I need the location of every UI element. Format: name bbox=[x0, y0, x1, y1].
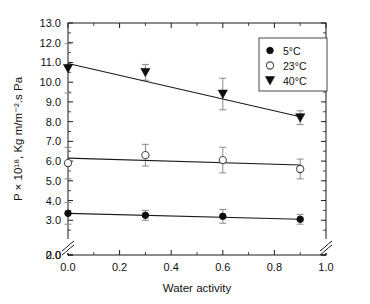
data-point bbox=[65, 210, 72, 217]
y-tick-label: 2.0 bbox=[46, 249, 61, 261]
y-tick-label: 7.0 bbox=[46, 135, 61, 147]
x-tick-label: 0.0 bbox=[60, 261, 75, 273]
data-point bbox=[297, 165, 304, 172]
x-tick-label: 0.4 bbox=[164, 261, 179, 273]
y-tick-label: 3.0 bbox=[46, 214, 61, 226]
y-tick-label: 8.0 bbox=[46, 116, 61, 128]
y-tick-label: 9.0 bbox=[46, 96, 61, 108]
y-axis-title: P × 10¹⁸, Kg m/m⁻².s Pa bbox=[12, 76, 24, 201]
chart-svg: 0.02.03.04.05.06.07.08.09.010.011.012.01… bbox=[0, 0, 370, 304]
x-axis-title: Water activity bbox=[163, 282, 232, 294]
x-tick-label: 1.0 bbox=[318, 261, 333, 273]
y-tick-label: 13.0 bbox=[40, 17, 61, 29]
x-tick-label: 0.2 bbox=[112, 261, 127, 273]
data-point bbox=[142, 152, 149, 159]
legend-label: 5°C bbox=[283, 45, 301, 57]
data-point bbox=[142, 212, 149, 219]
data-point bbox=[220, 213, 227, 220]
chart-figure: 0.02.03.04.05.06.07.08.09.010.011.012.01… bbox=[0, 0, 370, 304]
x-tick-label: 0.8 bbox=[267, 261, 282, 273]
legend-label: 40°C bbox=[283, 75, 307, 87]
y-tick-label: 5.0 bbox=[46, 175, 61, 187]
legend: 5°C23°C40°C bbox=[259, 38, 327, 91]
legend-marker-23°C bbox=[266, 62, 273, 69]
y-tick-label: 10.0 bbox=[40, 76, 61, 88]
legend-marker-5°C bbox=[267, 47, 274, 54]
x-tick-label: 0.6 bbox=[215, 261, 230, 273]
y-tick-label: 12.0 bbox=[40, 37, 61, 49]
data-point bbox=[219, 157, 226, 164]
y-tick-label: 11.0 bbox=[40, 56, 61, 68]
y-tick-label: 6.0 bbox=[46, 155, 61, 167]
y-tick-label: 4.0 bbox=[46, 195, 61, 207]
data-point bbox=[64, 159, 71, 166]
legend-label: 23°C bbox=[283, 60, 307, 72]
data-point bbox=[297, 216, 304, 223]
